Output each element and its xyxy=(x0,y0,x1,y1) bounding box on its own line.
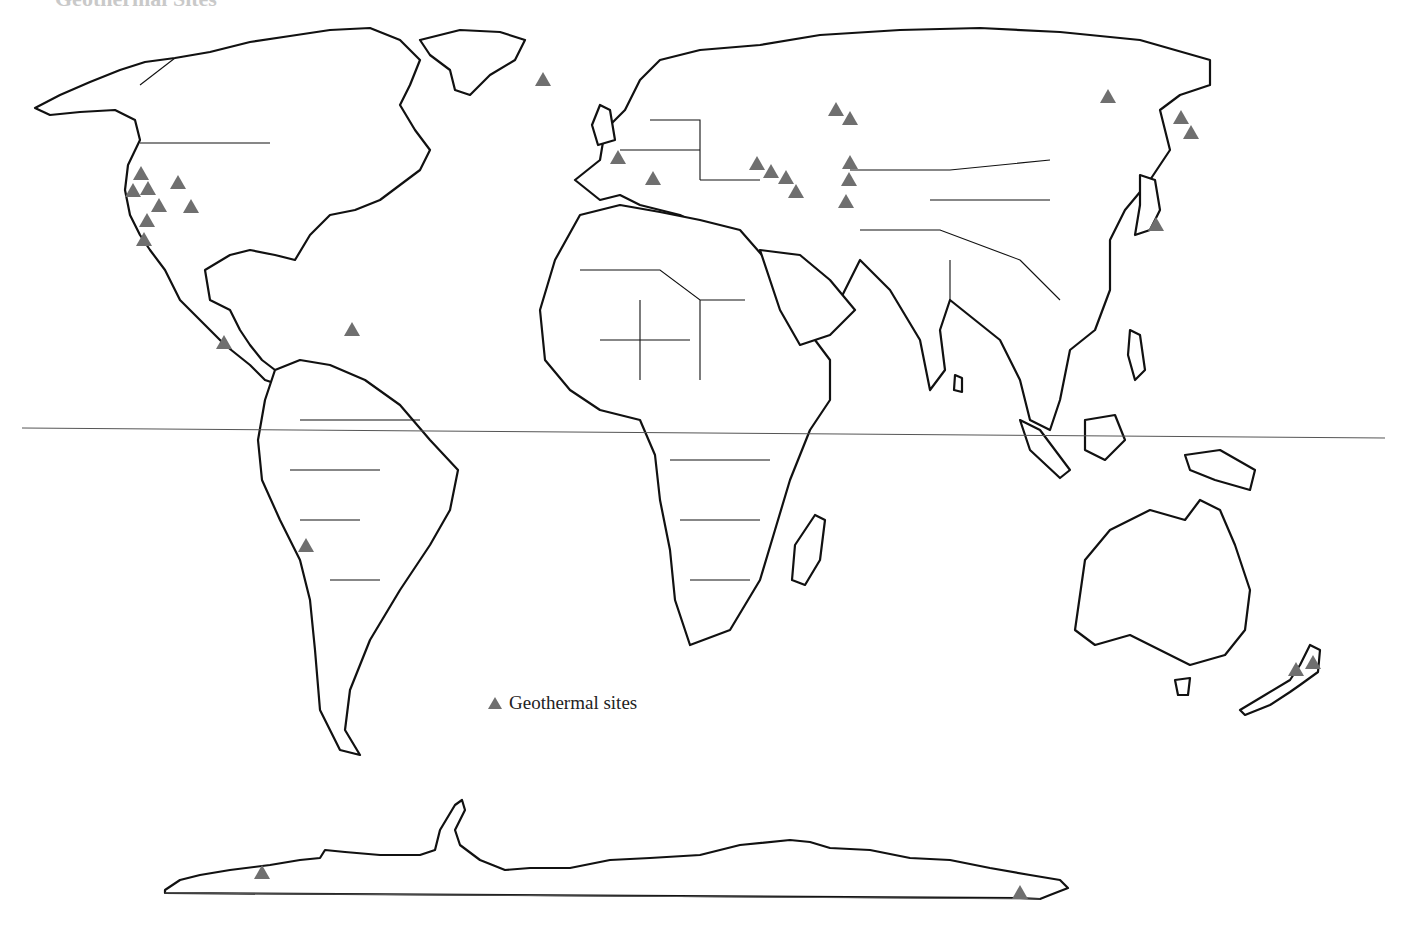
landmass-tasmania xyxy=(1175,678,1190,695)
landmass-madagascar xyxy=(792,515,825,585)
geothermal-site-marker-icon xyxy=(535,72,551,86)
geothermal-site-marker-icon xyxy=(1173,110,1189,124)
landmass-new-guinea xyxy=(1185,450,1255,490)
world-map xyxy=(0,0,1402,928)
geothermal-site-marker-icon xyxy=(344,322,360,336)
landmass-australia xyxy=(1075,500,1250,665)
landmass-antarctica xyxy=(165,800,1068,899)
geothermal-site-marker-icon xyxy=(1183,125,1199,139)
landmass-borneo xyxy=(1085,415,1125,460)
landmass-new-zealand xyxy=(1240,645,1320,715)
legend-label: Geothermal sites xyxy=(509,692,637,714)
landmass-greenland xyxy=(420,30,525,95)
landmass-sri-lanka xyxy=(954,375,962,392)
map-legend: Geothermal sites xyxy=(488,692,637,714)
landmass-south-america xyxy=(258,360,458,755)
triangle-marker-icon xyxy=(488,697,502,709)
landmass-philippines xyxy=(1128,330,1145,380)
landmass-british-isles xyxy=(592,105,615,145)
landmass-north-america xyxy=(35,28,430,385)
